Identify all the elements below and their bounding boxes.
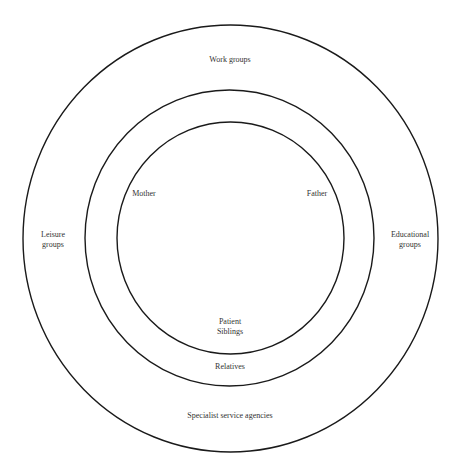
patient-siblings-label: Patient Siblings: [200, 317, 260, 337]
mother-label: Mother: [124, 189, 164, 199]
siblings-label: Siblings: [200, 327, 260, 337]
educational-groups-line2: groups: [380, 240, 440, 250]
middle-circle: [85, 90, 374, 386]
specialist-service-agencies-label: Specialist service agencies: [160, 411, 300, 421]
leisure-groups-line2: groups: [28, 240, 78, 250]
relatives-label: Relatives: [195, 362, 265, 372]
concentric-circles-diagram: Work groups Leisure groups Educational g…: [0, 0, 451, 472]
leisure-groups-label: Leisure groups: [28, 230, 78, 250]
father-label: Father: [297, 189, 337, 199]
educational-groups-label: Educational groups: [380, 230, 440, 250]
leisure-groups-line1: Leisure: [28, 230, 78, 240]
work-groups-label: Work groups: [190, 55, 270, 65]
patient-label: Patient: [200, 317, 260, 327]
educational-groups-line1: Educational: [380, 230, 440, 240]
